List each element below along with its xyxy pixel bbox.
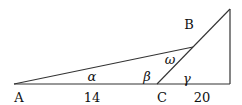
label-beta: β bbox=[143, 70, 151, 83]
label-length-AC: 14 bbox=[84, 91, 101, 104]
label-gamma: γ bbox=[183, 72, 191, 85]
label-alpha: α bbox=[88, 70, 97, 83]
label-A: A bbox=[14, 91, 23, 104]
label-B: B bbox=[184, 18, 194, 31]
label-length-CD: 20 bbox=[194, 91, 211, 104]
label-omega: ω bbox=[165, 53, 176, 66]
triangle-diagram: B ω α β γ A 14 C 20 bbox=[0, 0, 242, 105]
label-C: C bbox=[157, 91, 167, 104]
